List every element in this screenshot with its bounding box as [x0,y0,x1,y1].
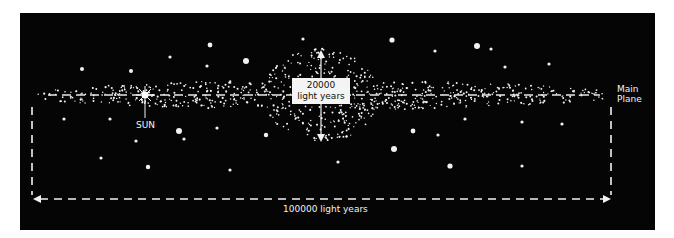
star-icon [463,117,466,120]
sun-label: SUN [136,120,155,130]
star-icon [489,47,492,50]
star-icon [520,120,523,123]
star-icon [134,139,137,142]
thickness-unit: light years [292,91,350,102]
star-icon [520,164,523,167]
diameter-label: 100000 light years [283,204,368,214]
star-icon [433,49,436,52]
star-icon [129,69,133,73]
star-icon [411,129,416,134]
galaxy-diagram: 20000 light years SUN Main Plane 100000 … [0,0,674,238]
star-icon [215,126,218,129]
star-icon [560,122,563,125]
star-icon [228,168,231,171]
star-icon [264,133,268,137]
star-icon [168,55,171,58]
star-icon [176,128,182,134]
star-icon [301,37,304,40]
star-icon [389,37,394,42]
main-plane-label-line1: Main [617,84,639,94]
star-icon [99,156,102,159]
star-icon [108,117,111,120]
star-icon [62,117,65,120]
field-stars [62,37,563,171]
star-icon [208,43,213,48]
star-icon [336,160,339,163]
star-icon [243,58,249,64]
star-icon [146,165,150,169]
star-icon [547,62,550,65]
star-icon [182,137,185,140]
star-icon [436,133,439,136]
star-icon [391,146,397,152]
star-icon [80,67,84,71]
galaxy-illustration [0,0,674,238]
star-icon [474,43,480,49]
main-plane-label-line2: Plane [617,94,642,104]
star-icon [205,64,208,67]
thickness-value: 20000 [292,80,350,91]
thickness-label: 20000 light years [292,78,350,104]
star-icon [503,65,506,68]
star-icon [447,163,452,168]
